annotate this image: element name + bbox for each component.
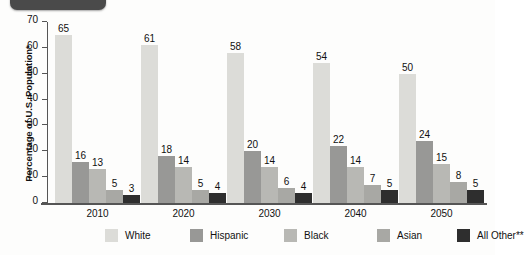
legend-swatch (284, 229, 297, 242)
x-axis-tick-label: 2040 (313, 208, 398, 219)
y-tick-label: 20 (27, 143, 38, 154)
bar: 13 (89, 169, 106, 203)
bar: 22 (330, 146, 347, 203)
bar-value-label: 14 (178, 155, 189, 166)
legend-swatch (105, 229, 118, 242)
bar-value-label: 50 (402, 62, 413, 73)
legend-item[interactable]: Asian (377, 228, 422, 242)
bar-group: 65161353 (55, 22, 140, 203)
bar-group: 58201464 (227, 22, 312, 203)
x-axis-tick-label: 2010 (55, 208, 140, 219)
legend-label: Hispanic (210, 230, 248, 241)
legend-label: Black (304, 230, 328, 241)
bar: 24 (416, 141, 433, 203)
legend-label: White (125, 230, 151, 241)
y-tick-mark (42, 202, 47, 203)
bar: 61 (141, 45, 158, 203)
bar: 5 (467, 190, 484, 203)
legend-item[interactable]: All Other** (457, 228, 524, 242)
y-tick-mark (42, 47, 47, 48)
bar: 16 (72, 162, 89, 203)
legend-swatch (190, 229, 203, 242)
x-axis-tick-label: 2050 (399, 208, 484, 219)
legend-label: Asian (397, 230, 422, 241)
bar: 4 (295, 193, 312, 203)
y-tick-label: 50 (27, 66, 38, 77)
x-axis-tick-label: 2020 (141, 208, 226, 219)
y-tick-mark (42, 124, 47, 125)
bar: 3 (123, 195, 140, 203)
bar: 5 (192, 190, 209, 203)
bar-value-label: 4 (301, 181, 307, 192)
bar: 18 (158, 156, 175, 203)
y-tick: 20 (42, 150, 47, 151)
legend-item[interactable]: Hispanic (190, 228, 248, 242)
bar-value-label: 18 (161, 144, 172, 155)
bar: 65 (55, 35, 72, 203)
y-tick-mark (42, 176, 47, 177)
bar-value-label: 54 (316, 51, 327, 62)
bar: 50 (399, 74, 416, 203)
bar-value-label: 8 (456, 170, 462, 181)
legend-item[interactable]: White (105, 228, 151, 242)
bar-value-label: 5 (473, 178, 479, 189)
y-tick-mark (42, 150, 47, 151)
y-tick: 50 (42, 73, 47, 74)
bar: 5 (106, 190, 123, 203)
y-tick: 70 (42, 21, 47, 22)
x-axis-line (41, 203, 487, 205)
bar-value-label: 5 (112, 178, 118, 189)
legend-swatch (377, 229, 390, 242)
y-tick-label: 30 (27, 117, 38, 128)
bar: 8 (450, 182, 467, 203)
y-tick-mark (42, 99, 47, 100)
bar: 20 (244, 151, 261, 203)
bar: 6 (278, 188, 295, 204)
bar: 14 (261, 167, 278, 203)
y-tick: 10 (42, 176, 47, 177)
y-tick-mark (42, 73, 47, 74)
bar: 14 (175, 167, 192, 203)
legend-swatch (457, 229, 470, 242)
y-tick-label: 70 (27, 14, 38, 25)
bar-value-label: 14 (264, 155, 275, 166)
bar-value-label: 4 (215, 181, 221, 192)
y-axis-line (47, 22, 48, 203)
y-tick: 0 (42, 202, 47, 203)
bar: 4 (209, 193, 226, 203)
bar-group: 50241585 (399, 22, 484, 203)
bar-value-label: 7 (370, 173, 376, 184)
bar: 5 (381, 190, 398, 203)
y-tick-label: 10 (27, 169, 38, 180)
bar: 54 (313, 63, 330, 203)
bar-value-label: 5 (198, 178, 204, 189)
bar-value-label: 24 (419, 129, 430, 140)
bar-value-label: 16 (75, 150, 86, 161)
bar-value-label: 3 (129, 183, 135, 194)
bar: 14 (347, 167, 364, 203)
legend-item[interactable]: Black (284, 228, 328, 242)
bar-value-label: 13 (92, 157, 103, 168)
bar: 15 (433, 164, 450, 203)
header-tab-decoration (10, 0, 106, 10)
bar-group: 54221475 (313, 22, 398, 203)
y-tick-label: 0 (32, 195, 38, 206)
chart-legend: WhiteHispanicBlackAsianAll Other** (47, 228, 487, 246)
bar-value-label: 61 (144, 33, 155, 44)
y-tick-label: 60 (27, 40, 38, 51)
y-tick: 40 (42, 99, 47, 100)
y-tick-label: 40 (27, 92, 38, 103)
plot-area: 010203040506070 651613536118145458201464… (47, 22, 487, 203)
x-axis-tick-label: 2030 (227, 208, 312, 219)
bar-value-label: 15 (436, 152, 447, 163)
bar-value-label: 22 (333, 134, 344, 145)
y-tick-mark (42, 21, 47, 22)
bar-value-label: 20 (247, 139, 258, 150)
bar-value-label: 6 (284, 176, 290, 187)
bar: 7 (364, 185, 381, 203)
y-tick: 60 (42, 47, 47, 48)
bar: 58 (227, 53, 244, 203)
bar-value-label: 58 (230, 41, 241, 52)
y-tick: 30 (42, 124, 47, 125)
